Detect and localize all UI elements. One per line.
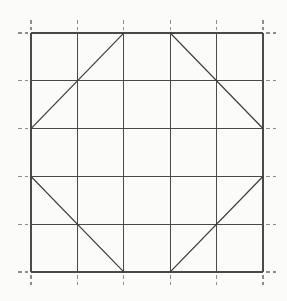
figure-background bbox=[0, 0, 287, 301]
figure-container: Octagon inscribed in a 5 by 5 square gri… bbox=[0, 0, 287, 301]
grid-octagon-diagram bbox=[0, 0, 287, 301]
